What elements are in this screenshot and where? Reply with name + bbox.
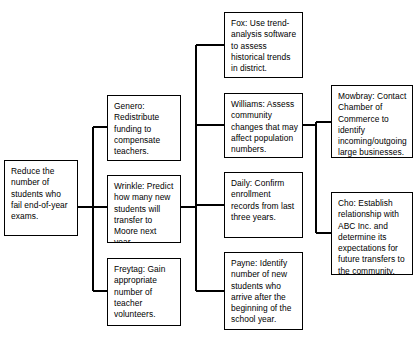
- node-fox[interactable]: Fox: Use trend-analysis software to asse…: [224, 12, 303, 78]
- node-root-label: Reduce the number of students who fail e…: [11, 166, 73, 222]
- node-payne[interactable]: Payne: Identify number of new students w…: [224, 252, 303, 330]
- node-payne-label: Payne: Identify number of new students w…: [231, 258, 298, 326]
- node-williams[interactable]: Williams: Assess community changes that …: [224, 93, 303, 158]
- node-mowbray-label: Mowbray: Contact Chamber of Commerce to …: [338, 91, 408, 158]
- node-genero-label: Genero: Redistribute funding to compensa…: [114, 101, 176, 157]
- node-genero[interactable]: Genero: Redistribute funding to compensa…: [107, 95, 181, 161]
- node-cho[interactable]: Cho: Establish relationship with ABC Inc…: [331, 192, 413, 275]
- flowchart-diagram: Reduce the number of students who fail e…: [0, 0, 419, 348]
- node-freytag-label: Freytag: Gain appropriate number of teac…: [114, 264, 176, 320]
- node-wrinkle[interactable]: Wrinkle: Predict how many new students w…: [107, 175, 181, 243]
- node-cho-label: Cho: Establish relationship with ABC Inc…: [338, 198, 408, 275]
- node-wrinkle-label: Wrinkle: Predict how many new students w…: [114, 181, 176, 243]
- node-mowbray[interactable]: Mowbray: Contact Chamber of Commerce to …: [331, 85, 413, 158]
- node-freytag[interactable]: Freytag: Gain appropriate number of teac…: [107, 258, 181, 326]
- node-williams-label: Williams: Assess community changes that …: [231, 99, 298, 155]
- node-fox-label: Fox: Use trend-analysis software to asse…: [231, 18, 298, 74]
- node-daily-label: Daily: Confirm enrollment records from l…: [231, 178, 298, 223]
- node-daily[interactable]: Daily: Confirm enrollment records from l…: [224, 172, 303, 238]
- node-root[interactable]: Reduce the number of students who fail e…: [4, 160, 78, 236]
